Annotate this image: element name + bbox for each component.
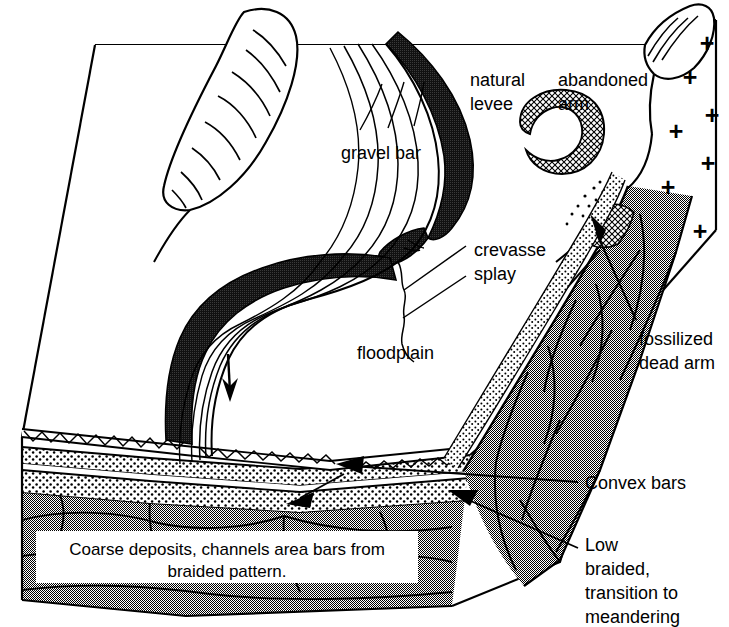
label-low-braided-line1: Low xyxy=(585,535,619,555)
diagram-canvas: + + + + + + + natural levee abandoned ar… xyxy=(0,0,729,627)
plus-icon: + xyxy=(693,217,708,245)
label-low-braided-line4: meandering xyxy=(585,607,680,627)
caption-line2: braided pattern. xyxy=(167,562,286,581)
label-natural-levee-line1: natural xyxy=(470,70,525,90)
label-fossilized-dead-arm-line2: dead arm xyxy=(639,353,715,373)
label-crevasse-splay-line1: crevasse xyxy=(474,240,546,260)
cross-section-front xyxy=(22,429,470,616)
label-natural-levee-line2: levee xyxy=(470,94,513,114)
label-abandoned-arm-line2: arm xyxy=(558,94,589,114)
label-low-braided-line2: braided, xyxy=(585,559,650,579)
plus-icon: + xyxy=(700,29,715,57)
label-crevasse-splay-line2: splay xyxy=(474,264,516,284)
block-diagram-svg: + + + + + + + natural levee abandoned ar… xyxy=(0,0,729,627)
plus-icon: + xyxy=(683,63,698,91)
label-low-braided-line3: transition to xyxy=(585,583,678,603)
label-convex-bars: Convex bars xyxy=(585,473,686,493)
plus-icon: + xyxy=(701,149,716,177)
label-floodplain: floodplain xyxy=(357,343,434,363)
plus-icon: + xyxy=(661,173,676,201)
plus-icon: + xyxy=(669,117,684,145)
label-gravel-bar: gravel bar xyxy=(341,143,421,163)
label-abandoned-arm-line1: abandoned xyxy=(558,70,648,90)
label-fossilized-dead-arm-line1: fossilized xyxy=(639,329,713,349)
plus-icon: + xyxy=(705,101,720,129)
caption-line1: Coarse deposits, channels area bars from xyxy=(69,540,385,559)
caption-box: Coarse deposits, channels area bars from… xyxy=(36,531,418,583)
